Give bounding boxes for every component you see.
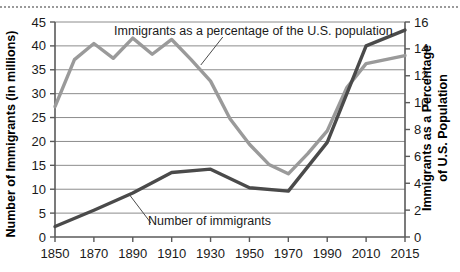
left-axis-tick-label: 35 [32, 62, 46, 77]
left-axis-tick-label: 40 [32, 38, 46, 53]
x-axis-tick-label: 2015 [391, 246, 420, 261]
x-axis-tick-label: 1890 [118, 246, 147, 261]
x-axis-tick-label: 2010 [352, 246, 381, 261]
x-axis-tick-label: 1990 [313, 246, 342, 261]
right-axis-title-line2: of U.S. Population [436, 74, 450, 182]
left-axis-tick-label: 30 [32, 86, 46, 101]
chart-figure: 051015202530354045 0246810121416 1850187… [0, 0, 460, 272]
left-axis [50, 22, 55, 237]
percentage-label-leader-line [201, 37, 223, 65]
top-dashed-rule [0, 6, 460, 8]
x-axis-tick-label: 1870 [79, 246, 108, 261]
left-axis-title: Number of Immigrants (in millions) [4, 31, 18, 238]
left-axis-tick-label: 15 [32, 158, 46, 173]
x-axis-tick-label: 1970 [274, 246, 303, 261]
percentage-line-series [55, 38, 405, 174]
number-line-series [55, 30, 405, 226]
left-axis-tick-labels: 051015202530354045 [32, 15, 46, 245]
left-axis-tick-label: 5 [39, 206, 46, 221]
right-axis-tick-label: 16 [414, 15, 428, 30]
left-axis-tick-label: 25 [32, 110, 46, 125]
right-axis-tick-label: 0 [414, 230, 421, 245]
left-axis-tick-label: 45 [32, 15, 46, 30]
x-axis-tick-labels: 1850187018901910193019501970199020102015 [41, 246, 420, 261]
x-axis-tick-label: 1950 [235, 246, 264, 261]
right-axis-title-line1: Immigrants as a Percentage [420, 45, 434, 211]
x-axis [55, 237, 405, 242]
immigration-line-chart: 051015202530354045 0246810121416 1850187… [0, 0, 460, 272]
left-axis-tick-label: 20 [32, 134, 46, 149]
percentage-series-annotation: Immigrants as a percentage of the U.S. p… [114, 24, 393, 38]
left-axis-tick-label: 0 [39, 230, 46, 245]
number-series-annotation: Number of immigrants [148, 214, 271, 228]
x-axis-tick-label: 1910 [157, 246, 186, 261]
x-axis-tick-label: 1930 [196, 246, 225, 261]
x-axis-tick-label: 1850 [41, 246, 70, 261]
left-axis-tick-label: 10 [32, 182, 46, 197]
